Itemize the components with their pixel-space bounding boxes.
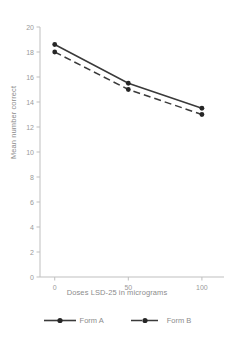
data-point-marker: [126, 81, 131, 86]
y-tick-label: 10: [26, 149, 34, 156]
y-tick-label: 0: [30, 274, 34, 281]
y-tick-label: 18: [26, 49, 34, 56]
y-axis-title: Mean number correct: [9, 58, 18, 188]
legend-entry-form-a: Form A: [43, 316, 104, 325]
legend-label-form-a: Form A: [80, 316, 104, 325]
legend-entry-form-b: Form B: [130, 316, 192, 325]
plot-area: 02468101214161820 050100: [0, 0, 234, 300]
series-line-form-a: [55, 45, 202, 109]
data-series-layer: [52, 42, 204, 117]
data-point-marker: [200, 112, 205, 117]
legend-swatch-solid-line-icon: [43, 316, 77, 325]
y-tick-label: 12: [26, 124, 34, 131]
y-axis-tick-marks: [37, 27, 41, 277]
data-point-marker: [200, 106, 205, 111]
data-point-marker: [52, 50, 57, 55]
x-axis-title: Doses LSD-25 in micrograms: [0, 288, 234, 297]
y-tick-label: 4: [30, 224, 34, 231]
y-tick-label: 8: [30, 174, 34, 181]
data-point-marker: [52, 42, 57, 47]
y-tick-label: 14: [26, 99, 34, 106]
legend-swatch-dashed-line-icon: [130, 316, 164, 325]
chart-legend: Form A Form B: [0, 316, 234, 325]
data-point-marker: [126, 87, 131, 92]
y-tick-label: 2: [30, 249, 34, 256]
y-tick-label: 16: [26, 74, 34, 81]
y-axis-tick-labels: 02468101214161820: [26, 24, 34, 281]
x-axis-tick-marks: [55, 277, 202, 281]
legend-label-form-b: Form B: [167, 316, 192, 325]
line-chart: 02468101214161820 050100 Mean number cor…: [0, 0, 234, 340]
y-tick-label: 20: [26, 24, 34, 31]
y-tick-label: 6: [30, 199, 34, 206]
